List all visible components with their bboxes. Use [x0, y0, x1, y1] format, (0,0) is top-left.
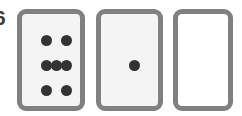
domino-tile-3[interactable] — [173, 9, 233, 111]
edge-label-clipped: 6 — [0, 6, 10, 30]
pip — [41, 60, 52, 71]
domino-tile-1[interactable] — [17, 9, 85, 111]
pip — [61, 60, 72, 71]
pip — [41, 85, 52, 96]
pip — [41, 35, 52, 46]
pip — [51, 60, 62, 71]
pip — [61, 35, 72, 46]
pip — [129, 60, 140, 71]
tile-row-figure: 6 — [0, 0, 242, 116]
tile-2-face — [101, 14, 158, 106]
tile-3-face — [178, 14, 228, 106]
domino-tile-2[interactable] — [96, 9, 163, 111]
pip — [61, 85, 72, 96]
tile-1-face — [22, 14, 80, 106]
